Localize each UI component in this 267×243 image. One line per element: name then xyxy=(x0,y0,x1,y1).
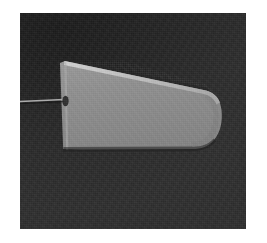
figure-caption xyxy=(0,0,1,1)
specimen-layer xyxy=(20,13,246,229)
image-field xyxy=(20,13,246,229)
figure-root xyxy=(0,0,267,243)
scale-bar-label xyxy=(0,0,1,1)
figure-title xyxy=(0,0,1,1)
edge-notch xyxy=(62,96,68,106)
